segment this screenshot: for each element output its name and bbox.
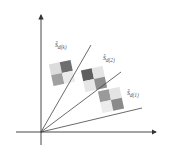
label-sub: d(2) xyxy=(106,57,115,63)
ray-1 xyxy=(41,108,142,132)
label-s-d-2: s*d(2) xyxy=(103,53,115,64)
diagram-graphics xyxy=(0,0,171,156)
label-sub: d(k) xyxy=(58,44,67,50)
patch-1 xyxy=(98,87,124,113)
patch-k xyxy=(49,60,75,86)
label-s-d-k: s*d(k) xyxy=(55,40,66,51)
vector-space-diagram: s*d(k) s*d(2) s*d(1) xyxy=(0,0,171,156)
patch-2 xyxy=(81,66,107,92)
label-sub: d(1) xyxy=(130,92,139,98)
ray-k xyxy=(41,45,91,132)
label-s-d-1: s*d(1) xyxy=(127,88,139,99)
